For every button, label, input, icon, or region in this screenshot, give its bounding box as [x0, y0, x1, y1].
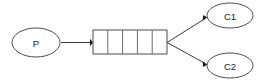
node-producer[interactable]: P: [12, 28, 60, 57]
edge-buffer-to-consumer1: [167, 15, 207, 43]
edge-buffer-to-consumer2-line: [167, 43, 205, 64]
node-consumer1-label: C1: [224, 11, 236, 22]
edge-buffer-to-consumer2: [167, 43, 207, 68]
diagram-canvas-svg: P C1 C2: [0, 0, 258, 82]
bounded-buffer[interactable]: [93, 30, 167, 54]
node-producer-label: P: [33, 38, 39, 49]
node-consumer2[interactable]: C2: [207, 53, 253, 78]
edge-producer-to-buffer: [61, 39, 93, 46]
edge-buffer-to-consumer1-line: [167, 19, 205, 43]
node-consumer2-label: C2: [224, 61, 236, 72]
bounded-buffer-outline[interactable]: [93, 30, 167, 54]
node-consumer1[interactable]: C1: [207, 3, 253, 28]
producer-consumer-diagram: P C1 C2: [0, 0, 258, 82]
